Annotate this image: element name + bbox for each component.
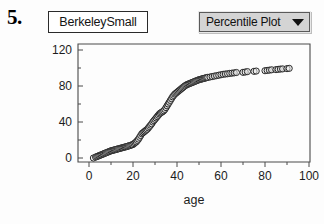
- data-point: [133, 139, 139, 145]
- data-point: [98, 152, 104, 158]
- data-point: [145, 125, 151, 131]
- data-point: [142, 128, 148, 134]
- data-point-group: [90, 65, 292, 161]
- data-point: [222, 71, 228, 77]
- data-point: [273, 67, 279, 73]
- data-point: [111, 147, 117, 153]
- data-point: [124, 143, 130, 149]
- data-point: [186, 81, 192, 87]
- plot-type-dropdown-label: Percentile Plot: [206, 16, 289, 29]
- data-point: [184, 82, 190, 88]
- data-point: [194, 78, 200, 84]
- y-tick-label: 40: [59, 115, 73, 129]
- data-point: [144, 126, 150, 132]
- data-point: [112, 147, 118, 153]
- data-point: [253, 68, 259, 74]
- x-tick-label: 60: [214, 169, 228, 183]
- data-point: [201, 75, 207, 81]
- data-point: [269, 67, 275, 73]
- data-point: [179, 85, 185, 91]
- data-point: [96, 153, 102, 159]
- data-point: [171, 92, 177, 98]
- data-point: [198, 76, 204, 82]
- plot-type-dropdown[interactable]: Percentile Plot: [199, 12, 310, 32]
- plot-panel: 5. BerkeleySmall Percentile Plot 0408012…: [0, 0, 324, 224]
- data-point: [185, 81, 191, 87]
- data-point: [187, 80, 193, 86]
- data-point: [93, 154, 99, 160]
- data-point: [266, 67, 272, 73]
- data-point: [262, 68, 268, 74]
- triangle-down-icon[interactable]: [292, 19, 304, 26]
- data-point: [143, 127, 149, 133]
- data-point: [110, 147, 116, 153]
- dataset-name-box[interactable]: BerkeleySmall: [48, 11, 148, 33]
- x-tick-label: 0: [86, 169, 93, 183]
- data-point: [94, 154, 100, 160]
- data-point: [121, 144, 127, 150]
- data-point: [137, 134, 143, 140]
- data-point: [117, 145, 123, 151]
- data-point: [181, 84, 187, 90]
- data-point: [162, 106, 168, 112]
- data-point: [126, 143, 132, 149]
- percentile-scatter-chart: 04080120020406080100age: [0, 0, 324, 224]
- data-point: [203, 75, 209, 81]
- data-point: [132, 140, 138, 146]
- data-point: [138, 132, 144, 138]
- data-point: [135, 136, 141, 142]
- data-point: [140, 130, 146, 136]
- data-point: [172, 91, 178, 97]
- data-point: [244, 69, 250, 75]
- data-point: [189, 79, 195, 85]
- data-point: [178, 86, 184, 92]
- data-point: [264, 67, 270, 73]
- y-tick-label: 0: [65, 151, 72, 165]
- data-point: [163, 105, 169, 111]
- data-point: [156, 111, 162, 117]
- data-point: [199, 76, 205, 82]
- data-point: [204, 75, 210, 81]
- data-point: [251, 68, 257, 74]
- data-point: [134, 137, 140, 143]
- data-point: [182, 83, 188, 89]
- data-point: [113, 146, 119, 152]
- data-point: [170, 94, 176, 100]
- data-point: [165, 101, 171, 107]
- data-point: [153, 115, 159, 121]
- data-point: [188, 80, 194, 86]
- data-point: [139, 131, 145, 137]
- data-point: [122, 144, 128, 150]
- y-tick-label: 120: [52, 43, 72, 57]
- data-point: [102, 150, 108, 156]
- data-point: [164, 103, 170, 109]
- data-point: [192, 78, 198, 84]
- data-point: [115, 146, 121, 152]
- data-point: [177, 87, 183, 93]
- data-point: [148, 122, 154, 128]
- dataset-name-label: BerkeleySmall: [59, 16, 136, 29]
- data-point: [225, 71, 231, 77]
- data-point: [209, 73, 215, 79]
- data-point: [127, 142, 133, 148]
- data-point: [216, 72, 222, 78]
- y-tick-label: 80: [59, 79, 73, 93]
- data-point: [233, 69, 239, 75]
- data-point: [90, 155, 96, 161]
- data-point: [174, 89, 180, 95]
- data-point: [227, 70, 233, 76]
- data-point: [231, 70, 237, 76]
- data-point: [193, 78, 199, 84]
- data-point: [129, 142, 135, 148]
- data-point: [107, 148, 113, 154]
- item-number: 5.: [7, 6, 22, 28]
- data-point: [195, 77, 201, 83]
- data-point: [109, 147, 115, 153]
- data-point: [97, 152, 103, 158]
- data-point: [123, 144, 129, 150]
- data-point: [275, 66, 281, 72]
- data-point: [167, 97, 173, 103]
- data-point: [118, 145, 124, 151]
- data-point: [218, 72, 224, 78]
- x-tick-label: 40: [170, 169, 184, 183]
